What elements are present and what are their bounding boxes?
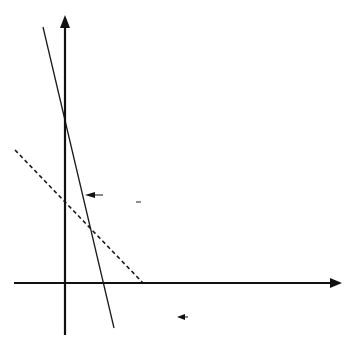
arrow-left-icon [177, 314, 185, 320]
arrow-left-icon [85, 192, 95, 198]
x-axis-arrow-icon [330, 278, 342, 288]
y-axis-arrow-icon [60, 15, 70, 28]
boundary-x-y-4 [15, 150, 143, 283]
inequality-graph [0, 0, 355, 344]
